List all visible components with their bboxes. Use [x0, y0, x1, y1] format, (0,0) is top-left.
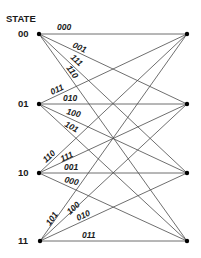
edge-label-00-00: 000: [57, 22, 71, 32]
node-right-11: [185, 239, 189, 243]
node-right-10: [185, 171, 189, 175]
state-label-11: 11: [18, 235, 29, 246]
trellis-diagram: STATE 00 01 10 11 000 001 111 110 011 01…: [0, 0, 201, 258]
state-label-01: 01: [18, 98, 29, 109]
node-left-11: [38, 239, 42, 243]
edge-label-01-11: 101: [63, 119, 80, 135]
edge-label-10-00: 110: [41, 148, 58, 165]
edge-label-11-11: 011: [82, 230, 96, 240]
state-label-10: 10: [18, 167, 29, 178]
state-label-00: 00: [18, 28, 29, 39]
edge-label-10-10: 001: [64, 162, 78, 172]
state-header: STATE: [6, 13, 36, 24]
node-left-00: [37, 32, 41, 36]
node-left-01: [37, 102, 41, 106]
edge-label-01-01: 010: [63, 93, 77, 103]
node-right-00: [185, 32, 189, 36]
node-left-10: [37, 171, 41, 175]
node-right-01: [185, 102, 189, 106]
